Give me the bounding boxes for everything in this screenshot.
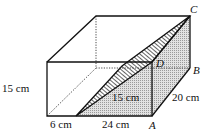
point-label-B: B: [193, 64, 200, 76]
label-bottom-gap: 6 cm: [50, 118, 72, 130]
label-depth: 20 cm: [172, 91, 200, 103]
point-label-C: C: [190, 3, 198, 15]
label-bottom-water: 24 cm: [102, 118, 130, 130]
point-label-D: D: [155, 57, 164, 69]
point-label-A: A: [148, 119, 156, 131]
label-water-height: 15 cm: [112, 91, 140, 103]
label-height-left: 15 cm: [2, 82, 30, 94]
cuboid-diagram: 15 cm 15 cm 20 cm 6 cm 24 cm A B C D: [0, 0, 215, 140]
